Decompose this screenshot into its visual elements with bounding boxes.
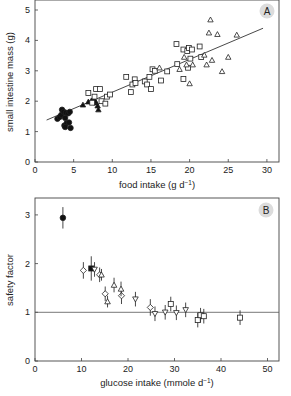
panel-a-ylabel: small intestine mass (g) <box>4 32 15 132</box>
data-point <box>147 304 153 310</box>
panel-a-frame <box>35 0 279 162</box>
data-point <box>90 100 95 105</box>
data-point <box>108 92 113 97</box>
data-point <box>189 47 194 52</box>
data-point <box>195 318 200 323</box>
data-point <box>128 90 133 95</box>
y-tick-label: 5 <box>25 5 30 15</box>
panel-b-ylabel: safety factor <box>4 254 15 306</box>
data-point <box>206 30 211 35</box>
data-point <box>103 101 108 106</box>
data-point <box>188 56 193 61</box>
y-tick-label: 3 <box>25 210 30 220</box>
data-point <box>209 57 214 62</box>
y-tick-label: 3 <box>25 66 30 76</box>
data-point <box>147 74 152 79</box>
data-point <box>197 44 202 49</box>
data-point <box>67 109 72 114</box>
y-tick-label: 0 <box>25 356 30 366</box>
panel-a-badge: A <box>264 6 271 17</box>
x-tick-label: 20 <box>123 364 133 374</box>
data-point <box>68 125 73 130</box>
data-point <box>187 81 192 86</box>
panel-a-xlabel: food intake (g d−1) <box>119 179 195 190</box>
data-point <box>149 87 154 92</box>
data-point <box>165 69 170 74</box>
panel-a: 051015202530012345 A food intake (g d−1)… <box>4 0 279 190</box>
regression-line <box>47 28 263 120</box>
x-tick-label: 30 <box>262 165 272 175</box>
data-point <box>124 74 129 79</box>
y-tick-label: 1 <box>25 307 30 317</box>
data-point <box>238 315 243 320</box>
data-point <box>159 78 164 83</box>
x-tick-label: 25 <box>223 165 233 175</box>
x-tick-label: 0 <box>32 165 37 175</box>
data-point <box>80 267 86 273</box>
x-tick-label: 10 <box>76 364 86 374</box>
x-tick-label: 0 <box>32 364 37 374</box>
data-point <box>177 67 182 72</box>
data-point <box>152 68 157 73</box>
x-tick-label: 40 <box>216 364 226 374</box>
data-point <box>62 124 67 129</box>
data-point <box>184 62 189 67</box>
panel-b-xlabel: glucose intake (mmole d−1) <box>100 377 214 388</box>
data-point <box>174 42 179 47</box>
data-point <box>219 69 224 74</box>
x-tick-label: 5 <box>71 165 76 175</box>
y-tick-label: 2 <box>25 259 30 269</box>
y-tick-label: 0 <box>25 157 30 167</box>
data-point <box>118 293 124 299</box>
data-point <box>145 82 150 87</box>
data-point <box>181 54 186 59</box>
panel-b-frame <box>35 198 279 361</box>
data-point <box>86 91 91 96</box>
panel-b-badge: B <box>263 205 270 216</box>
data-point <box>152 312 158 317</box>
data-point <box>190 62 195 67</box>
y-tick-label: 4 <box>25 35 30 45</box>
x-tick-label: 15 <box>146 165 156 175</box>
data-point <box>98 87 103 92</box>
data-point <box>92 94 97 99</box>
panel-b-ticks: 010203040500123 <box>25 210 273 374</box>
data-point <box>133 297 139 302</box>
x-tick-label: 20 <box>185 165 195 175</box>
data-point <box>118 286 124 291</box>
figure: 051015202530012345 A food intake (g d−1)… <box>0 0 291 396</box>
data-point <box>208 17 213 22</box>
x-tick-label: 30 <box>169 364 179 374</box>
x-tick-label: 50 <box>262 364 272 374</box>
data-point <box>157 65 162 70</box>
data-point <box>133 81 138 86</box>
data-point <box>215 32 220 37</box>
data-point <box>60 215 66 221</box>
data-point <box>174 311 180 316</box>
panel-b: 010203040500123 B glucose intake (mmole … <box>4 198 279 388</box>
panel-a-points <box>47 17 263 131</box>
data-point <box>66 120 71 125</box>
data-point <box>204 62 209 67</box>
x-tick-label: 10 <box>107 165 117 175</box>
data-point <box>175 62 180 67</box>
data-point <box>168 302 173 307</box>
data-point <box>201 314 206 319</box>
data-point <box>111 282 117 287</box>
data-point <box>80 102 85 107</box>
y-tick-label: 2 <box>25 96 30 106</box>
y-tick-label: 1 <box>25 127 30 137</box>
data-point <box>226 54 231 59</box>
panel-b-points <box>35 207 279 327</box>
data-point <box>181 77 186 82</box>
data-point <box>234 32 239 37</box>
